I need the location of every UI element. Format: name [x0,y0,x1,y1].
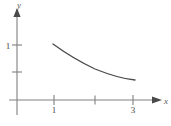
y-axis-label: y [16,0,21,10]
curve-path [53,44,135,80]
y-tick-label-1: 1 [6,41,11,51]
graph-figure: 1 1 3 y x [0,0,171,126]
x-tick-label-1: 1 [52,105,57,115]
plot-canvas: 1 1 3 y x [0,0,171,126]
x-tick-label-3: 3 [131,105,136,115]
x-axis-label: x [163,96,168,106]
x-axis-arrowhead [152,96,162,103]
